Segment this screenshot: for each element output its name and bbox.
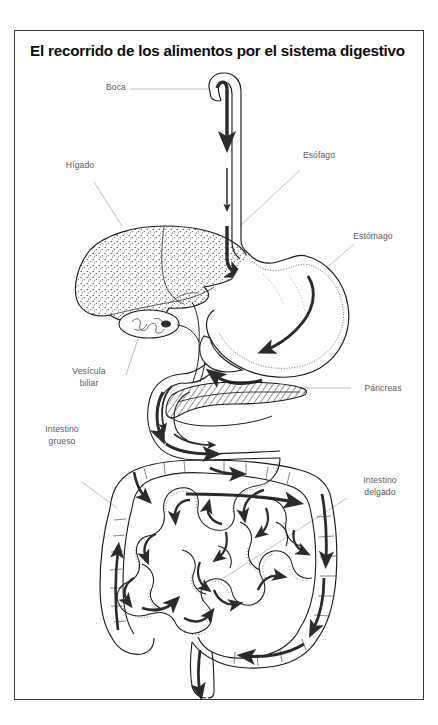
pancreas-lower-lobe xyxy=(166,414,272,426)
si-loop-2 xyxy=(117,536,176,624)
arrow-descending-down xyxy=(322,494,326,560)
si-arrow-8 xyxy=(214,590,236,604)
colon-sigmoid-outer xyxy=(192,638,318,668)
bile-duct-left xyxy=(193,342,199,382)
colon-transverse-top xyxy=(200,460,330,494)
si-arrow-4 xyxy=(144,534,156,558)
si-arrow-12 xyxy=(198,562,206,588)
leader-higado xyxy=(94,182,122,226)
si-loop-9 xyxy=(142,564,160,608)
si-arrow-11 xyxy=(218,532,227,558)
colon-descending-inner xyxy=(300,508,316,628)
label-pancreas: Páncreas xyxy=(354,383,412,395)
label-estomago: Estómago xyxy=(344,231,402,243)
pylorus-lower xyxy=(182,374,210,383)
small-intestine-arrows xyxy=(125,490,304,621)
label-intestino-grueso: Intestino grueso xyxy=(30,424,94,447)
arrow-transverse-right xyxy=(186,494,294,502)
arrow-duodenum-right2 xyxy=(174,434,212,445)
label-esofago: Esófago xyxy=(292,150,346,162)
label-intestino-delgado: Intestino delgado xyxy=(348,475,412,498)
leader-intestino-delgado xyxy=(224,498,347,578)
arrow-rectum-down xyxy=(199,650,201,692)
leader-esofago xyxy=(240,170,300,226)
arrow-sigmoid-left xyxy=(246,644,304,657)
cystic-duct xyxy=(177,325,199,342)
label-vesicula-biliar: Vesícula biliar xyxy=(58,366,120,389)
leader-intestino-grueso xyxy=(82,482,117,508)
si-loop-6 xyxy=(240,522,260,570)
pancreas xyxy=(166,382,307,426)
label-boca: Boca xyxy=(96,82,136,94)
colon-ascending xyxy=(100,508,112,638)
colon-cecum xyxy=(112,638,154,654)
si-arrow-5 xyxy=(125,578,134,602)
colon-descending xyxy=(318,494,337,638)
colon-transverse-bottom xyxy=(204,473,310,508)
colon-haustra-marks xyxy=(110,461,336,666)
si-arrow-3 xyxy=(175,500,190,518)
large-intestine-arrows xyxy=(116,468,327,692)
digestive-system-diagram xyxy=(14,30,424,700)
esophagus-inner-wall xyxy=(218,82,240,259)
page: El recorrido de los alimentos por el sis… xyxy=(0,0,438,725)
si-arrow-2 xyxy=(208,506,222,524)
si-arrow-6 xyxy=(142,602,174,610)
si-arrow-13 xyxy=(260,508,268,534)
si-loop-4 xyxy=(254,551,312,604)
si-arrow-1 xyxy=(244,490,264,516)
arrow-cecum-up xyxy=(116,550,118,630)
si-arrow-7 xyxy=(184,614,210,621)
gallbladder-stone xyxy=(161,321,171,328)
mouth-tip xyxy=(210,92,221,101)
gallbladder xyxy=(119,302,206,382)
label-higado: Hígado xyxy=(54,160,106,172)
si-loop-3 xyxy=(176,579,254,634)
si-arrow-10 xyxy=(293,530,304,552)
